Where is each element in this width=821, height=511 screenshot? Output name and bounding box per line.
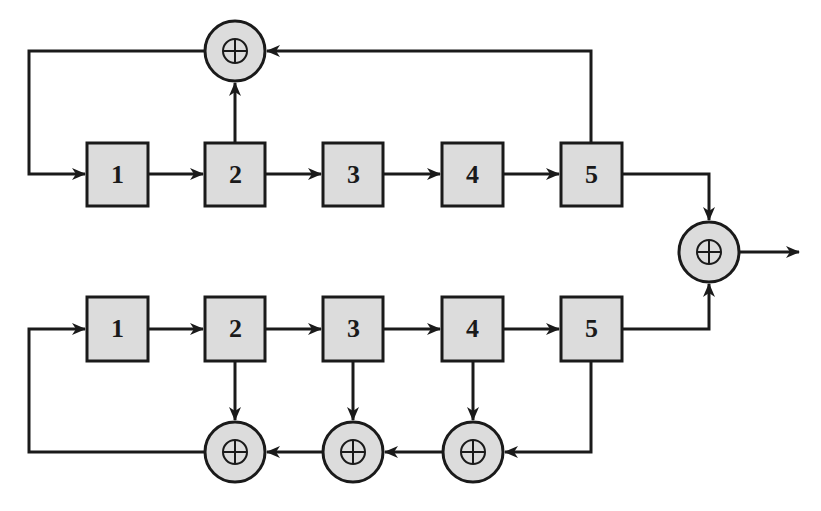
bottom-tap-5-wire: [505, 361, 591, 452]
top-tap-5-wire: [267, 51, 591, 143]
bottom-xor-2: [323, 422, 383, 482]
top-xor: [205, 21, 265, 81]
bottom-stage-5-label: 5: [561, 297, 622, 360]
bottom-xor-3: [443, 422, 503, 482]
top-stage-5-label: 5: [561, 143, 622, 206]
top-stage-3-label: 3: [323, 143, 384, 206]
xor-icon: [697, 240, 721, 264]
xor-icon: [341, 440, 365, 464]
bottom-output-wire: [622, 284, 709, 329]
xor-icon: [461, 440, 485, 464]
top-output-wire: [622, 174, 709, 220]
xor-icon: [223, 39, 247, 63]
bottom-stage-1-label: 1: [87, 297, 148, 360]
top-stage-2-label: 2: [205, 143, 266, 206]
output-xor: [679, 222, 739, 282]
top-stage-1-label: 1: [87, 143, 148, 206]
xor-icon: [223, 440, 247, 464]
bottom-stage-2-label: 2: [205, 297, 266, 360]
bottom-stage-4-label: 4: [442, 297, 503, 360]
lfsr-diagram: [0, 0, 821, 511]
top-stage-4-label: 4: [442, 143, 503, 206]
bottom-xor-1: [205, 422, 265, 482]
bottom-stage-3-label: 3: [323, 297, 384, 360]
